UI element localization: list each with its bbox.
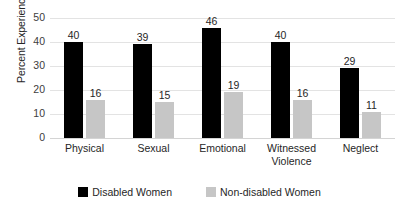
bar-group: 4016 <box>50 18 119 138</box>
bar-value-label: 40 <box>264 29 298 41</box>
y-tick-label-30: 30 <box>23 59 45 72</box>
x-tick-label-line: Emotional <box>188 142 257 155</box>
plot-area: 50403020100 40163915461940162911 <box>50 18 395 138</box>
bar <box>86 100 105 138</box>
black-square-swatch <box>78 187 88 197</box>
x-tick-label: WitnessedViolence <box>257 142 326 168</box>
legend-label: Non-disabled Women <box>220 186 321 198</box>
x-tick-label: Emotional <box>188 142 257 168</box>
bar <box>224 92 243 138</box>
bar-value-label: 16 <box>286 87 320 99</box>
bar <box>362 112 381 138</box>
y-tick-label-10: 10 <box>23 107 45 120</box>
x-tick-label: Sexual <box>119 142 188 168</box>
bar-groups: 40163915461940162911 <box>50 18 395 138</box>
bar <box>155 102 174 138</box>
legend-item[interactable]: Non-disabled Women <box>206 186 321 198</box>
gridline-0 <box>50 138 395 139</box>
bar-group: 3915 <box>119 18 188 138</box>
x-axis-categories: PhysicalSexualEmotionalWitnessedViolence… <box>50 142 395 168</box>
bar-value-label: 19 <box>217 79 251 91</box>
x-tick-label-line: Violence <box>257 155 326 168</box>
bar-value-label: 39 <box>126 31 160 43</box>
bar-value-label: 11 <box>355 99 389 111</box>
bar <box>293 100 312 138</box>
x-tick-label-line: Sexual <box>119 142 188 155</box>
bar-value-label: 16 <box>79 87 113 99</box>
legend-item[interactable]: Disabled Women <box>78 186 172 198</box>
gray-square-swatch <box>206 187 216 197</box>
bar-value-label: 29 <box>333 55 367 67</box>
bar-group: 2911 <box>326 18 395 138</box>
x-tick-label: Physical <box>50 142 119 168</box>
x-tick-label-line: Neglect <box>326 142 395 155</box>
y-tick-label-50: 50 <box>23 11 45 24</box>
chart-legend: Disabled WomenNon-disabled Women <box>0 186 399 198</box>
y-tick-label-20: 20 <box>23 83 45 96</box>
x-tick-label-line: Witnessed <box>257 142 326 155</box>
bar-group: 4619 <box>188 18 257 138</box>
bar-value-label: 40 <box>57 29 91 41</box>
y-tick-label-40: 40 <box>23 35 45 48</box>
bar-group: 4016 <box>257 18 326 138</box>
x-tick-label-line: Physical <box>50 142 119 155</box>
y-tick-label-0: 0 <box>23 131 45 144</box>
legend-label: Disabled Women <box>92 186 172 198</box>
bar-chart: Percent Experiencing Abusde 50403020100 … <box>0 0 399 212</box>
bar-value-label: 15 <box>148 89 182 101</box>
bar-value-label: 46 <box>195 15 229 27</box>
x-tick-label: Neglect <box>326 142 395 168</box>
